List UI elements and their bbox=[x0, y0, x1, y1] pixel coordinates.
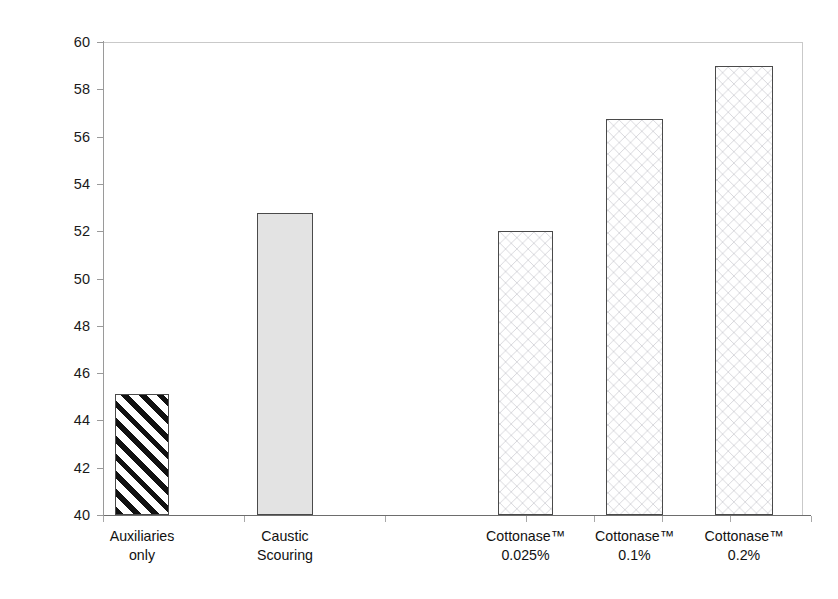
y-axis-tick-mark bbox=[97, 279, 104, 280]
y-axis-tick-label: 48 bbox=[44, 318, 90, 334]
bar-3 bbox=[606, 119, 663, 515]
y-axis-tick-label: 42 bbox=[44, 460, 90, 476]
y-axis-tick-label: 56 bbox=[44, 129, 90, 145]
x-axis-tick-mark bbox=[811, 516, 812, 522]
x-axis-category-label: Cottonase™ 0.1% bbox=[576, 527, 694, 565]
x-axis-tick-mark bbox=[385, 516, 386, 522]
plot-area bbox=[103, 42, 803, 515]
y-axis-tick-mark bbox=[97, 42, 104, 43]
x-axis-category-label: Cottonase™ 0.025% bbox=[467, 527, 585, 565]
y-axis-tick-label: 58 bbox=[44, 81, 90, 97]
x-axis-tick-mark bbox=[103, 516, 104, 522]
y-axis-tick-mark bbox=[97, 468, 104, 469]
y-axis-tick-mark bbox=[97, 326, 104, 327]
chart-container: Luminosity (%) 6058565452504846444240 Au… bbox=[0, 0, 838, 599]
y-axis-tick-mark bbox=[97, 89, 104, 90]
x-axis-tick-mark bbox=[244, 516, 245, 522]
y-axis-tick-label: 40 bbox=[44, 507, 90, 523]
x-axis-tick-mark bbox=[662, 516, 663, 522]
y-axis-tick-label: 60 bbox=[44, 34, 90, 50]
x-axis-category-label: Cottonase™ 0.2% bbox=[685, 527, 803, 565]
bar-1 bbox=[257, 213, 313, 515]
y-axis-tick-label: 52 bbox=[44, 223, 90, 239]
y-axis-tick-label: 44 bbox=[44, 412, 90, 428]
y-axis-tick-label: 54 bbox=[44, 176, 90, 192]
bar-2 bbox=[498, 231, 553, 515]
y-axis-tick-label: 50 bbox=[44, 271, 90, 287]
x-axis-category-label: Caustic Scouring bbox=[226, 527, 344, 565]
y-axis-tick-mark bbox=[97, 373, 104, 374]
x-axis-tick-mark bbox=[594, 516, 595, 522]
y-axis-tick-labels: 6058565452504846444240 bbox=[38, 0, 90, 599]
y-axis-tick-mark bbox=[97, 420, 104, 421]
y-axis-tick-mark bbox=[97, 184, 104, 185]
x-axis-tick-mark bbox=[526, 516, 527, 522]
bar-4 bbox=[715, 66, 773, 515]
y-axis-tick-mark bbox=[97, 137, 104, 138]
bar-0 bbox=[115, 394, 169, 515]
x-axis-line bbox=[103, 515, 811, 516]
y-axis-tick-label: 46 bbox=[44, 365, 90, 381]
y-axis-tick-mark bbox=[97, 231, 104, 232]
x-axis-tick-mark bbox=[730, 516, 731, 522]
x-axis-category-label: Auxiliaries only bbox=[83, 527, 201, 565]
